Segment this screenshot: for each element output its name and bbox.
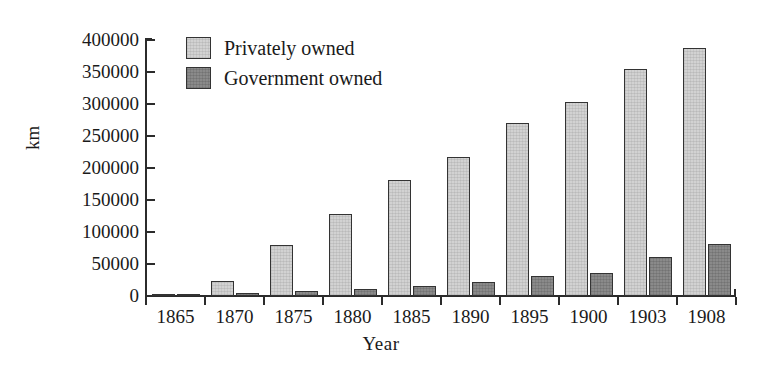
- bar-private-1900: [565, 102, 588, 296]
- bar-government-1895: [531, 276, 554, 296]
- legend-swatch-privately-owned: [186, 37, 211, 59]
- legend-swatch-government-owned: [186, 67, 211, 89]
- y-axis-tick-label: 300000: [0, 94, 139, 113]
- x-axis-tick-label: 1885: [382, 306, 441, 328]
- bar-government-1903: [649, 257, 672, 296]
- y-axis-title: km: [22, 126, 44, 150]
- x-axis-tick: [676, 297, 678, 305]
- x-axis-tick: [204, 297, 206, 305]
- y-axis-tick-label: 400000: [0, 30, 139, 49]
- x-axis-tick: [322, 297, 324, 305]
- y-axis-tick-label: 50000: [0, 254, 139, 273]
- y-axis-tick-label: 150000: [0, 190, 139, 209]
- bar-private-1885: [388, 180, 411, 296]
- x-axis-tick-label: 1890: [441, 306, 500, 328]
- bar-government-1865: [177, 294, 200, 296]
- bar-private-1865: [152, 294, 175, 296]
- legend-item-government-owned: Government owned: [186, 63, 382, 93]
- bar-government-1875: [295, 291, 318, 296]
- y-axis-tick-label: 0: [0, 286, 139, 305]
- y-axis-tick-label: 200000: [0, 158, 139, 177]
- y-axis-tick-label: 100000: [0, 222, 139, 241]
- bar-private-1890: [447, 157, 470, 296]
- x-axis-tick-label: 1900: [559, 306, 618, 328]
- bar-private-1880: [329, 214, 352, 296]
- legend-item-privately-owned: Privately owned: [186, 33, 382, 63]
- bar-private-1875: [270, 245, 293, 296]
- x-axis-tick-label: 1880: [323, 306, 382, 328]
- y-axis-tick-label: 250000: [0, 126, 139, 145]
- y-axis-tick-label: 350000: [0, 62, 139, 81]
- x-axis-title: Year: [0, 333, 762, 355]
- bar-private-1908: [683, 48, 706, 296]
- x-axis-tick-label: 1908: [677, 306, 736, 328]
- chart-legend: Privately owned Government owned: [186, 33, 382, 93]
- bar-private-1870: [211, 281, 234, 296]
- bar-government-1885: [413, 286, 436, 296]
- x-axis-tick: [499, 297, 501, 305]
- bar-government-1870: [236, 293, 259, 296]
- x-axis-tick: [735, 297, 737, 305]
- x-axis-tick-label: 1870: [205, 306, 264, 328]
- x-axis-tick-label: 1903: [618, 306, 677, 328]
- x-axis-tick: [381, 297, 383, 305]
- x-axis-tick: [263, 297, 265, 305]
- bar-government-1890: [472, 282, 495, 296]
- bar-private-1895: [506, 123, 529, 296]
- x-axis-tick: [558, 297, 560, 305]
- bar-private-1903: [624, 69, 647, 296]
- bar-government-1908: [708, 244, 731, 296]
- x-axis-tick: [145, 297, 147, 305]
- x-axis-tick-label: 1865: [146, 306, 205, 328]
- x-axis-tick: [617, 297, 619, 305]
- x-axis-tick-label: 1895: [500, 306, 559, 328]
- chart-figure: 0500001000001500002000002500003000003500…: [0, 0, 762, 365]
- bar-government-1900: [590, 273, 613, 296]
- legend-label-government-owned: Government owned: [224, 68, 382, 88]
- bar-government-1880: [354, 289, 377, 296]
- x-axis-tick-label: 1875: [264, 306, 323, 328]
- x-axis-tick: [440, 297, 442, 305]
- legend-label-privately-owned: Privately owned: [224, 38, 355, 58]
